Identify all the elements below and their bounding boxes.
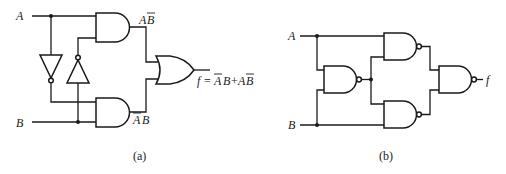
inversion-bubble [76,55,81,60]
input-a-label: A [15,9,24,23]
and-bottom-label-b: B [142,113,150,127]
not-gate-icon [67,60,89,83]
and-bottom-label-abar: A [132,113,141,127]
logic-circuits: A B A B A [0,0,506,174]
wire [317,90,324,125]
inversion-bubble [417,112,422,117]
output-f-label: f [486,73,491,87]
inversion-bubble [357,77,362,82]
wire [51,83,96,102]
nand-gate-icon [439,66,472,93]
output-term2-bbar: B [246,74,254,88]
wire [371,57,384,80]
circuit-b: A B f (b) [287,29,491,163]
output-plus: + [231,74,238,88]
and-top-label-bbar: B [147,13,155,27]
output-prefix: f = [197,74,211,88]
not-gate-icon [40,55,62,78]
output-term2-a: A [237,74,246,88]
input-b-label: B [16,116,24,130]
wire [317,36,324,70]
input-a-label: A [287,29,296,43]
input-b-label: B [288,118,296,132]
nand-gate-icon [324,66,357,93]
inversion-bubble [472,77,477,82]
and-top-label-a: A [138,13,147,27]
output-term1-abar: A [213,74,222,88]
and-gate-icon [96,98,129,127]
wire [422,90,440,115]
inversion-bubble [49,78,54,83]
circuit-a: A B A B A [15,9,254,163]
caption-b: (b) [379,149,393,163]
output-term1-b: B [223,74,231,88]
or-gate-icon [156,56,194,84]
and-gate-icon [96,13,129,42]
caption-a: (a) [133,149,146,163]
wire [371,80,384,105]
nand-gate-icon [384,101,417,128]
wire [130,27,161,62]
inversion-bubble [417,44,422,49]
nand-gate-icon [384,33,417,60]
wire [78,38,96,55]
wire [422,47,440,71]
